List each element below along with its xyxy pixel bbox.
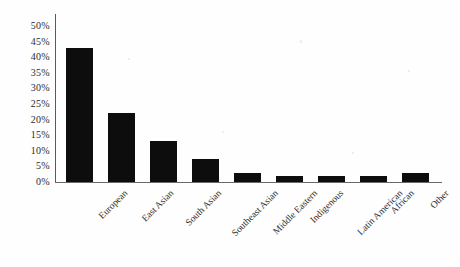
y-axis-tick-label: 35%: [0, 68, 50, 78]
bar-column[interactable]: [66, 26, 93, 182]
y-axis-tick-label: 45%: [0, 37, 50, 47]
x-axis-line: [55, 182, 442, 183]
y-axis-tick-label: 40%: [0, 52, 50, 62]
x-axis-tick-label: East Asian: [139, 188, 175, 224]
bar[interactable]: [192, 159, 219, 182]
bar-chart-figure: 0%5%10%15%20%25%30%35%40%45%50% European…: [0, 0, 460, 267]
bar-column[interactable]: [318, 26, 345, 182]
bar-column[interactable]: [192, 26, 219, 182]
x-axis-tick-label: South Asian: [183, 188, 223, 228]
y-axis-tick-label: 5%: [0, 161, 50, 171]
bar[interactable]: [360, 176, 387, 182]
y-axis-tick-label: 50%: [0, 21, 50, 31]
bar-column[interactable]: [402, 26, 429, 182]
bar-column[interactable]: [276, 26, 303, 182]
y-axis-tick-label: 30%: [0, 83, 50, 93]
x-axis-tick-label: European: [96, 188, 130, 222]
bar-column[interactable]: [360, 26, 387, 182]
bar-column[interactable]: [150, 26, 177, 182]
bar[interactable]: [150, 141, 177, 182]
y-axis-tick-label: 20%: [0, 115, 50, 125]
bar[interactable]: [276, 176, 303, 182]
y-axis-tick-label: 10%: [0, 146, 50, 156]
y-axis-tick-label: 25%: [0, 99, 50, 109]
y-axis-tick-labels: 0%5%10%15%20%25%30%35%40%45%50%: [0, 0, 50, 267]
bar-column[interactable]: [108, 26, 135, 182]
bar[interactable]: [66, 48, 93, 182]
bar[interactable]: [318, 176, 345, 182]
bar-column[interactable]: [234, 26, 261, 182]
bar[interactable]: [108, 113, 135, 182]
y-axis-tick-label: 15%: [0, 130, 50, 140]
x-axis-tick-label: Other: [428, 188, 451, 211]
x-axis-tick-labels: EuropeanEast AsianSouth AsianSoutheast A…: [56, 186, 460, 267]
y-axis-tick-label: 0%: [0, 177, 50, 187]
plot-area: [56, 26, 440, 182]
bar[interactable]: [234, 173, 261, 182]
bar[interactable]: [402, 173, 429, 182]
